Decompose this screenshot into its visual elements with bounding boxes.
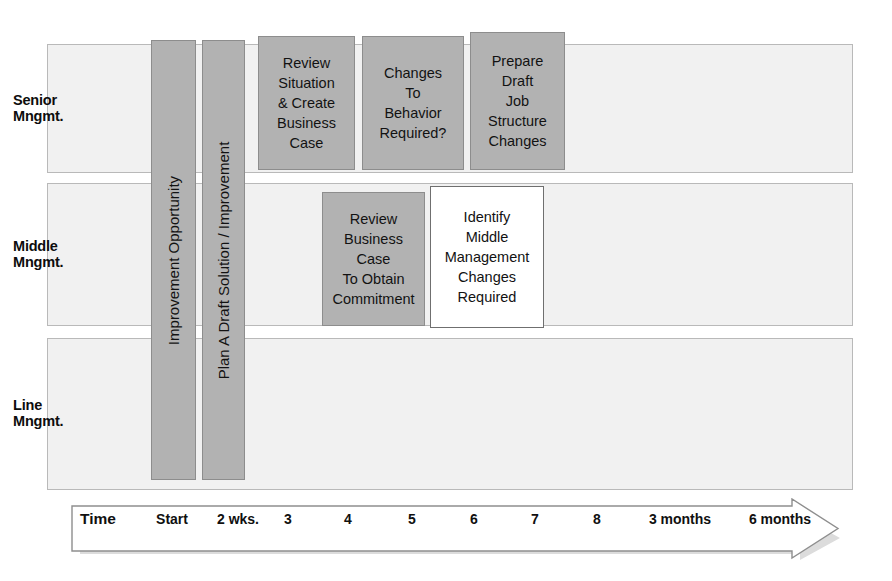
timeline-tick-1: Start xyxy=(156,511,188,527)
diagram-canvas: Senior Mngmt. Middle Mngmt. Line Mngmt. … xyxy=(0,0,892,581)
phase-column-improvement-opportunity[interactable]: Improvement Opportunity xyxy=(151,40,196,480)
swimlane-label-line: Line Mngmt. xyxy=(13,397,63,429)
phase-column-label-plan-draft-solution: Plan A Draft Solution / Improvement xyxy=(216,141,231,379)
phase-column-plan-draft-solution[interactable]: Plan A Draft Solution / Improvement xyxy=(202,40,245,480)
task-label: Prepare Draft Job Structure Changes xyxy=(488,51,547,151)
timeline-tick-5: 5 xyxy=(408,511,416,527)
timeline-tick-2: 2 wks. xyxy=(217,511,259,527)
timeline-tick-3: 3 xyxy=(284,511,292,527)
task-review-situation-create-business-case[interactable]: Review Situation & Create Business Case xyxy=(258,36,355,170)
task-label: Changes To Behavior Required? xyxy=(380,63,447,143)
timeline-axis: TimeStart2 wks.3456783 months6 months xyxy=(70,498,860,560)
timeline-tick-7: 7 xyxy=(531,511,539,527)
timeline-tick-10: 6 months xyxy=(749,511,811,527)
task-identify-middle-management-changes-required[interactable]: Identify Middle Management Changes Requi… xyxy=(430,186,544,328)
timeline-tick-0: Time xyxy=(80,511,116,527)
timeline-tick-9: 3 months xyxy=(649,511,711,527)
task-prepare-draft-job-structure-changes[interactable]: Prepare Draft Job Structure Changes xyxy=(470,32,565,170)
timeline-tick-4: 4 xyxy=(344,511,352,527)
timeline-tick-8: 8 xyxy=(593,511,601,527)
timeline-arrow-icon xyxy=(70,498,860,560)
swimlane-label-middle: Middle Mngmt. xyxy=(13,238,63,270)
timeline-tick-6: 6 xyxy=(470,511,478,527)
task-label: Review Business Case To Obtain Commitmen… xyxy=(327,209,420,309)
swimlane-label-senior: Senior Mngmt. xyxy=(13,92,63,124)
task-label: Review Situation & Create Business Case xyxy=(277,53,336,153)
phase-column-label-improvement-opportunity: Improvement Opportunity xyxy=(166,175,181,344)
task-label: Identify Middle Management Changes Requi… xyxy=(445,207,530,307)
task-changes-to-behavior-required[interactable]: Changes To Behavior Required? xyxy=(362,36,464,170)
task-review-business-case-obtain-commitment[interactable]: Review Business Case To Obtain Commitmen… xyxy=(322,192,425,326)
